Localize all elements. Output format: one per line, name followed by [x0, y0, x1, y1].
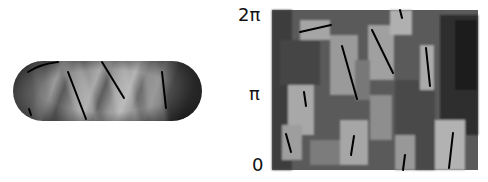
y-tick-2pi: 2π	[238, 6, 260, 24]
y-tick-pi: π	[249, 85, 260, 103]
capsule-cell	[13, 58, 202, 124]
figure-canvas	[0, 0, 488, 182]
surface-heatmap	[272, 10, 478, 170]
y-tick-0: 0	[252, 156, 263, 174]
